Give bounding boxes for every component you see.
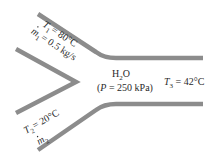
outlet-temperature-label: T3 = 42°C bbox=[164, 76, 205, 90]
pressure-label: (P = 250 kPa) bbox=[97, 82, 153, 94]
bottom-pipe-wall bbox=[38, 104, 203, 150]
mixing-chamber-diagram: T1= 80°C m1= 0.5 kg/s T2= 20°C m2 H2O (P… bbox=[0, 0, 216, 161]
inlet2-labels: T2= 20°C bbox=[22, 107, 63, 139]
inlet2-temperature-label: T2= 20°C bbox=[22, 107, 63, 139]
fluid-label: H2O bbox=[112, 68, 130, 82]
